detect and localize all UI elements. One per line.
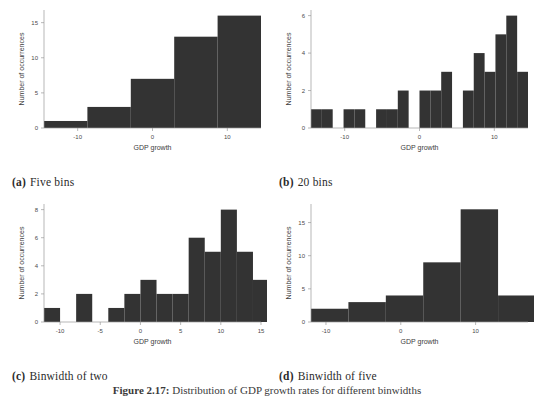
x-axis-title: GDP growth [401,144,439,152]
x-tick-label: 5 [179,328,183,334]
panel-c-binwidth-two: -10-505101502468GDP growthNumber of occu… [0,194,267,386]
histogram-bar [420,91,431,128]
x-tick-label: 15 [258,328,265,334]
y-tick-label: 5 [35,90,39,96]
histogram-bar [157,294,173,322]
histogram-chart-c: -10-505101502468GDP growthNumber of occu… [0,194,267,360]
histogram-bar [124,294,140,322]
figure-caption-text: Distribution of GDP growth rates for dif… [172,384,421,396]
y-tick-label: 0 [35,125,39,131]
x-axis-title: GDP growth [134,144,172,152]
x-tick-label: 10 [491,134,498,140]
histogram-bar [474,53,485,128]
histogram-bar [253,280,267,322]
histogram-bar [348,302,385,322]
caption-b-text: 20 bins [298,176,333,188]
histogram-bar [237,252,253,322]
histogram-bar [423,262,460,322]
histogram-bar [387,109,398,128]
x-axis-title: GDP growth [401,338,439,346]
x-tick-label: 0 [418,134,422,140]
histogram-chart-b: -100100246GDP growthNumber of occurrence… [267,0,534,166]
y-tick-label: 0 [302,125,306,131]
caption-b: (b)20 bins [279,176,333,188]
x-tick-label: 0 [399,328,403,334]
y-tick-label: 5 [302,286,306,292]
caption-c-tag: (c) [12,370,25,382]
y-tick-label: 4 [35,263,39,269]
y-tick-label: 15 [31,20,38,26]
figure-footer-caption: Figure 2.17: Distribution of GDP growth … [0,382,534,396]
y-axis-title: Number of occurrences [285,226,292,299]
histogram-bar [44,308,60,322]
plot-area-c: -10-505101502468GDP growthNumber of occu… [0,194,267,360]
histogram-bar [173,294,189,322]
y-tick-label: 0 [302,319,306,325]
y-tick-label: 4 [302,50,306,56]
x-tick-label: 10 [472,328,479,334]
histogram-bar [498,295,534,322]
histogram-bar [463,91,474,128]
histogram-bar [174,37,217,128]
y-tick-label: 15 [298,220,305,226]
histogram-bar [376,109,387,128]
x-tick-label: -10 [322,328,331,334]
y-tick-label: 2 [302,88,306,94]
histogram-bar [108,308,124,322]
caption-b-tag: (b) [279,176,294,188]
y-tick-label: 6 [35,235,39,241]
histogram-bar [218,16,261,128]
plot-area-b: -100100246GDP growthNumber of occurrence… [267,0,534,166]
plot-area-d: -10010051015GDP growthNumber of occurren… [267,194,534,360]
y-tick-label: 10 [31,55,38,61]
y-tick-label: 8 [35,207,39,213]
figure-panel-grid: -10010051015GDP growthNumber of occurren… [0,0,534,396]
x-axis-title: GDP growth [134,338,172,346]
caption-a: (a)Five bins [12,176,74,188]
caption-d-text: Binwidth of five [298,370,377,382]
histogram-chart-d: -10010051015GDP growthNumber of occurren… [267,194,534,360]
histogram-bar [76,294,92,322]
caption-d: (d)Binwidth of five [279,370,377,382]
histogram-bar [354,109,365,128]
x-tick-label: -10 [56,328,65,334]
histogram-bar [322,109,333,128]
histogram-bar [221,210,237,322]
panel-a-five-bins: -10010051015GDP growthNumber of occurren… [0,0,267,192]
y-tick-label: 0 [35,319,39,325]
caption-d-tag: (d) [279,370,294,382]
panel-d-binwidth-five: -10010051015GDP growthNumber of occurren… [267,194,534,386]
histogram-bar [398,91,409,128]
histogram-bar [344,109,355,128]
figure-number: Figure 2.17: [113,384,170,396]
y-tick-label: 10 [298,253,305,259]
histogram-bar [485,72,496,128]
caption-c: (c)Binwidth of two [12,370,108,382]
histogram-bar [517,72,528,128]
y-tick-label: 6 [302,13,306,19]
plot-area-a: -10010051015GDP growthNumber of occurren… [0,0,267,166]
histogram-bar [430,91,441,128]
histogram-bar [131,79,174,128]
histogram-bar [386,295,423,322]
histogram-bar [189,238,205,322]
histogram-bar [205,252,221,322]
y-axis-title: Number of occurrences [285,32,292,105]
caption-a-tag: (a) [12,176,26,188]
histogram-bar [506,16,517,128]
x-tick-label: -10 [73,134,82,140]
x-tick-label: -10 [340,134,349,140]
x-tick-label: 10 [217,328,224,334]
histogram-bar [44,121,87,128]
histogram-bar [311,109,322,128]
histogram-bar [140,280,156,322]
x-tick-label: 0 [139,328,143,334]
histogram-bar [87,107,130,128]
caption-a-text: Five bins [30,176,74,188]
y-axis-title: Number of occurrences [18,32,25,105]
x-tick-label: 10 [224,134,231,140]
y-axis-title: Number of occurrences [18,226,25,299]
histogram-bar [441,72,452,128]
y-tick-label: 2 [35,291,39,297]
histogram-chart-a: -10010051015GDP growthNumber of occurren… [0,0,267,166]
